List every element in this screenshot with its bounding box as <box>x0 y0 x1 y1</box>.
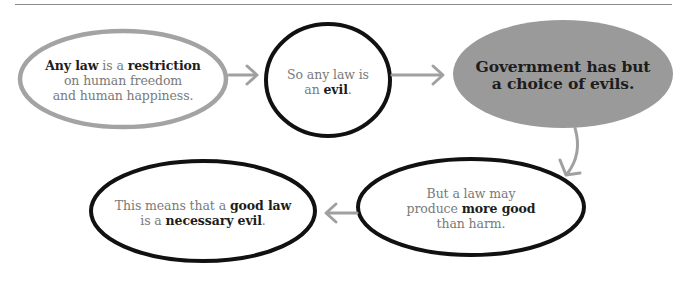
node-text-line: Any law is a restriction <box>23 58 223 73</box>
node-text-line: is a necessary evil. <box>93 213 313 228</box>
node-text-line: So any law is <box>268 67 388 82</box>
node-text-line: than harm. <box>360 216 582 231</box>
arrow-right-icon <box>229 66 257 84</box>
node-text-line: on human freedom <box>23 73 223 88</box>
node-3-text: Government has buta choice of evils. <box>455 58 671 92</box>
node-text-line: This means that a good law <box>93 198 313 213</box>
arrow-right-icon <box>392 66 443 84</box>
arrow-left-icon <box>326 204 357 222</box>
node-5-text: This means that a good lawis a necessary… <box>93 198 313 228</box>
flowchart-canvas <box>0 0 687 286</box>
node-text-line: a choice of evils. <box>455 75 671 92</box>
node-2-text: So any law isan evil. <box>268 67 388 97</box>
node-text-line: an evil. <box>268 82 388 97</box>
node-text-line: Government has but <box>455 58 671 75</box>
node-text-line: But a law may <box>360 186 582 201</box>
node-4-text: But a law mayproduce more goodthan harm. <box>360 186 582 231</box>
node-1-text: Any law is a restrictionon human freedom… <box>23 58 223 103</box>
node-text-line: produce more good <box>360 201 582 216</box>
node-text-line: and human happiness. <box>23 88 223 103</box>
arrow-curved-down-icon <box>560 128 580 175</box>
